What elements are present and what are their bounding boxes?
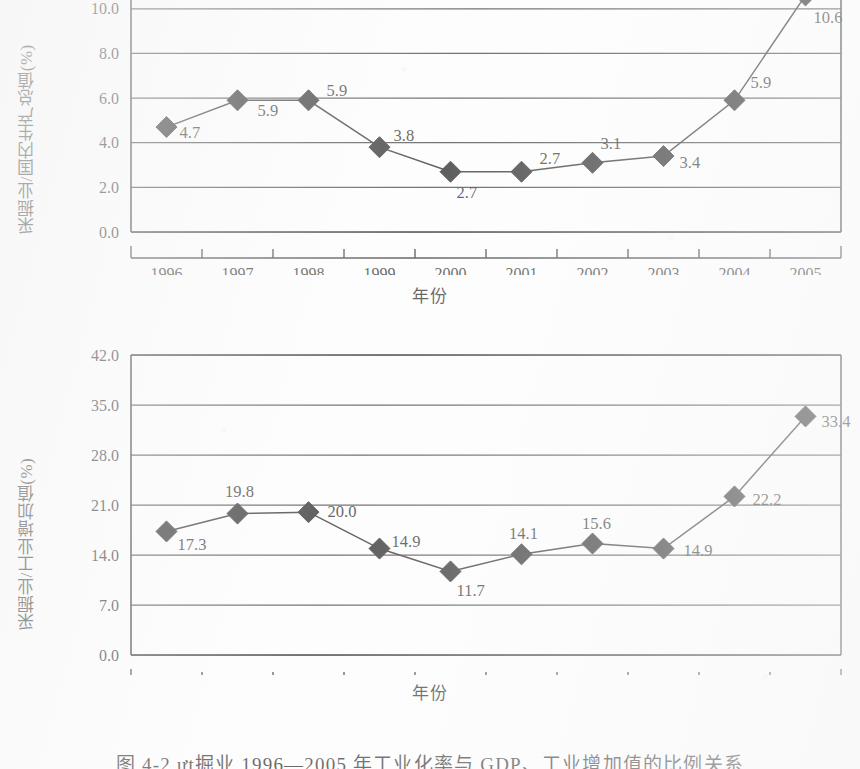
data-point-marker: [511, 544, 532, 565]
chart-mining-to-industrial-added-value: 采掘业/工业增加值(%) 0.07.014.021.028.035.042.01…: [0, 330, 860, 720]
data-point-label: 14.1: [509, 524, 538, 543]
chart2-x-axis-title: 年份: [0, 679, 860, 704]
data-point-marker: [156, 117, 177, 138]
chart1-plot: 0.02.04.06.08.010.0199619971998199920002…: [0, 0, 860, 275]
x-tick-label: 2002: [577, 265, 609, 275]
data-point-marker: [440, 161, 461, 182]
y-tick-label: 0.0: [99, 647, 119, 664]
chart1-x-axis-title: 年份: [0, 282, 860, 307]
data-point-label: 33.4: [822, 412, 851, 431]
data-point-label: 20.0: [328, 502, 357, 521]
data-point-label: 15.6: [582, 514, 611, 533]
x-tick-label: 1998: [293, 265, 325, 275]
data-point-label: 10.6: [814, 8, 843, 27]
y-tick-label: 0.0: [99, 224, 119, 241]
data-point-label: 14.9: [392, 532, 421, 551]
data-point-marker: [156, 521, 177, 542]
figure-caption: 图 4-2 ựt掘业 1996—2005 年工业化率与 GDP、工业增加值的比例…: [0, 752, 860, 769]
data-point-label: 3.8: [394, 126, 415, 145]
data-point-label: 11.7: [457, 581, 485, 600]
y-tick-label: 21.0: [91, 497, 119, 514]
x-tick-label: 1999: [364, 265, 396, 275]
y-tick-label: 14.0: [91, 547, 119, 564]
y-tick-label: 10.0: [91, 0, 119, 17]
data-point-marker: [298, 90, 319, 111]
chart2-y-axis-title: 采掘业/工业增加值(%): [14, 380, 39, 630]
data-point-label: 2.7: [457, 183, 478, 202]
data-point-label: 3.1: [601, 134, 622, 153]
data-point-label: 5.9: [327, 81, 348, 100]
y-tick-label: 28.0: [91, 447, 119, 464]
y-tick-label: 7.0: [99, 597, 119, 614]
chart-mining-to-gdp: 采掘业/国内生产总值(%) 0.02.04.06.08.010.01996199…: [0, 0, 860, 320]
data-point-label: 5.9: [258, 101, 279, 120]
data-point-label: 22.2: [753, 490, 782, 509]
data-point-marker: [724, 90, 745, 111]
data-point-label: 5.9: [751, 73, 772, 92]
data-point-label: 3.4: [680, 153, 701, 172]
y-tick-label: 2.0: [99, 179, 119, 196]
series-line: [167, 0, 806, 172]
x-tick-label: 2001: [506, 265, 538, 275]
y-tick-label: 6.0: [99, 90, 119, 107]
data-point-marker: [511, 161, 532, 182]
data-point-marker: [369, 137, 390, 158]
data-point-label: 4.7: [180, 123, 201, 142]
data-point-label: 2.7: [540, 149, 561, 168]
data-point-label: 14.9: [684, 541, 713, 560]
data-point-marker: [369, 538, 390, 559]
data-point-label: 17.3: [178, 535, 207, 554]
y-tick-label: 8.0: [99, 45, 119, 62]
x-tick-label: 2005: [790, 265, 822, 275]
y-tick-label: 42.0: [91, 347, 119, 364]
data-point-marker: [227, 503, 248, 524]
data-point-marker: [582, 152, 603, 173]
x-tick-label: 1997: [222, 265, 254, 275]
y-tick-label: 4.0: [99, 134, 119, 151]
data-point-marker: [440, 561, 461, 582]
x-tick-label: 2004: [719, 265, 751, 275]
data-point-marker: [653, 538, 674, 559]
data-point-marker: [653, 146, 674, 167]
x-tick-label: 2003: [648, 265, 680, 275]
x-tick-label: 1996: [151, 265, 183, 275]
data-point-marker: [227, 90, 248, 111]
chart1-y-axis-title: 采掘业/国内生产总值(%): [14, 4, 39, 234]
y-tick-label: 35.0: [91, 397, 119, 414]
data-point-marker: [582, 533, 603, 554]
data-point-label: 19.8: [225, 482, 254, 501]
chart2-plot: 0.07.014.021.028.035.042.019961997199819…: [0, 330, 860, 675]
x-tick-label: 2000: [435, 265, 467, 275]
